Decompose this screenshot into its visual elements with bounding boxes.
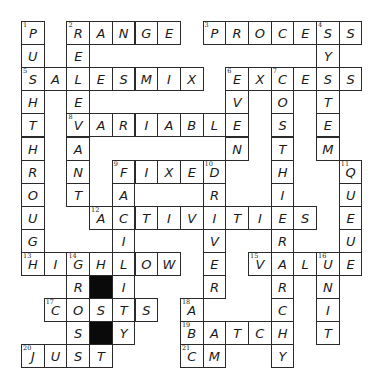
grid-cell[interactable]: I (157, 67, 181, 91)
grid-cell[interactable]: M (135, 67, 159, 91)
grid-cell[interactable]: Y (316, 44, 340, 68)
grid-cell[interactable]: E (271, 206, 295, 230)
grid-cell[interactable]: 15V (248, 252, 272, 276)
grid-cell[interactable]: S (339, 67, 363, 91)
grid-cell[interactable]: 9F (112, 160, 136, 184)
grid-cell[interactable]: C (271, 21, 295, 45)
grid-cell[interactable]: X (180, 67, 204, 91)
grid-cell[interactable]: A (157, 113, 181, 137)
grid-cell[interactable]: R (271, 229, 295, 253)
grid-cell[interactable]: V (180, 206, 204, 230)
grid-cell[interactable]: H (89, 252, 113, 276)
grid-cell[interactable]: U (339, 183, 363, 207)
grid-cell[interactable]: G (21, 229, 45, 253)
grid-cell[interactable]: H (271, 160, 295, 184)
grid-cell[interactable]: U (339, 229, 363, 253)
grid-cell[interactable]: S (66, 321, 90, 345)
grid-cell[interactable]: L (203, 113, 227, 137)
grid-cell[interactable]: I (316, 298, 340, 322)
grid-cell[interactable]: Y (271, 344, 295, 368)
grid-cell[interactable]: I (112, 229, 136, 253)
grid-cell[interactable]: I (248, 206, 272, 230)
grid-cell[interactable]: S (316, 67, 340, 91)
grid-cell[interactable]: 21C (180, 344, 204, 368)
grid-cell[interactable]: E (66, 44, 90, 68)
grid-cell[interactable]: S (66, 344, 90, 368)
grid-cell[interactable]: R (225, 21, 249, 45)
grid-cell[interactable]: T (271, 137, 295, 161)
grid-cell[interactable]: S (89, 298, 113, 322)
grid-cell[interactable]: C (112, 206, 136, 230)
grid-cell[interactable]: 1P (21, 21, 45, 45)
grid-cell[interactable]: I (157, 206, 181, 230)
grid-cell[interactable]: H (21, 137, 45, 161)
grid-cell[interactable]: I (135, 160, 159, 184)
grid-cell[interactable]: 4S (316, 21, 340, 45)
grid-cell[interactable]: A (44, 67, 68, 91)
grid-cell[interactable]: B (180, 113, 204, 137)
grid-cell[interactable]: N (66, 160, 90, 184)
grid-cell[interactable]: A (203, 321, 227, 345)
grid-cell[interactable]: T (21, 113, 45, 137)
grid-cell[interactable]: U (21, 44, 45, 68)
grid-cell[interactable]: A (89, 113, 113, 137)
grid-cell[interactable]: O (248, 21, 272, 45)
grid-cell[interactable]: E (89, 67, 113, 91)
grid-cell[interactable]: H (271, 321, 295, 345)
grid-cell[interactable]: 17C (44, 298, 68, 322)
grid-cell[interactable]: I (44, 252, 68, 276)
grid-cell[interactable]: E (225, 113, 249, 137)
grid-cell[interactable]: M (316, 137, 340, 161)
grid-cell[interactable]: N (316, 275, 340, 299)
grid-cell[interactable]: I (271, 183, 295, 207)
grid-cell[interactable]: E (203, 252, 227, 276)
grid-cell[interactable]: V (225, 90, 249, 114)
grid-cell[interactable]: E (339, 252, 363, 276)
grid-cell[interactable]: U (44, 344, 68, 368)
grid-cell[interactable]: 14G (66, 252, 90, 276)
grid-cell[interactable]: 19B (180, 321, 204, 345)
grid-cell[interactable]: 13H (21, 252, 45, 276)
grid-cell[interactable]: S (293, 206, 317, 230)
grid-cell[interactable]: 20J (21, 344, 45, 368)
grid-cell[interactable]: T (112, 298, 136, 322)
grid-cell[interactable]: H (21, 90, 45, 114)
grid-cell[interactable]: R (66, 275, 90, 299)
grid-cell[interactable]: R (203, 275, 227, 299)
grid-cell[interactable]: O (21, 183, 45, 207)
grid-cell[interactable]: V (203, 229, 227, 253)
grid-cell[interactable]: 2R (66, 21, 90, 45)
grid-cell[interactable]: 7C (271, 67, 295, 91)
grid-cell[interactable]: E (157, 21, 181, 45)
grid-cell[interactable]: C (248, 321, 272, 345)
grid-cell[interactable]: E (293, 21, 317, 45)
grid-cell[interactable]: O (66, 298, 90, 322)
grid-cell[interactable]: L (66, 67, 90, 91)
grid-cell[interactable]: R (203, 183, 227, 207)
grid-cell[interactable]: A (112, 183, 136, 207)
grid-cell[interactable]: T (316, 90, 340, 114)
grid-cell[interactable]: R (271, 275, 295, 299)
grid-cell[interactable]: O (271, 90, 295, 114)
grid-cell[interactable]: 11Q (339, 160, 363, 184)
grid-cell[interactable]: S (112, 67, 136, 91)
grid-cell[interactable]: 8V (66, 113, 90, 137)
grid-cell[interactable]: I (112, 275, 136, 299)
grid-cell[interactable]: U (21, 206, 45, 230)
grid-cell[interactable]: I (135, 113, 159, 137)
grid-cell[interactable]: E (293, 67, 317, 91)
grid-cell[interactable]: X (157, 160, 181, 184)
grid-cell[interactable]: M (203, 344, 227, 368)
grid-cell[interactable]: T (225, 321, 249, 345)
grid-cell[interactable]: T (225, 206, 249, 230)
grid-cell[interactable]: W (157, 252, 181, 276)
grid-cell[interactable]: T (89, 344, 113, 368)
grid-cell[interactable]: L (112, 252, 136, 276)
grid-cell[interactable]: X (248, 67, 272, 91)
grid-cell[interactable]: R (21, 160, 45, 184)
grid-cell[interactable]: T (66, 183, 90, 207)
grid-cell[interactable]: 3P (203, 21, 227, 45)
grid-cell[interactable]: G (135, 21, 159, 45)
grid-cell[interactable]: E (180, 160, 204, 184)
grid-cell[interactable]: N (225, 137, 249, 161)
